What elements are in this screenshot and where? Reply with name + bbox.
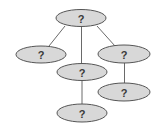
tree-node-right-child: ? bbox=[98, 83, 150, 101]
node-label: ? bbox=[121, 49, 128, 61]
node-label: ? bbox=[38, 49, 45, 61]
node-label: ? bbox=[121, 87, 128, 99]
tree-node-right: ? bbox=[98, 45, 150, 63]
edge-root-right bbox=[97, 26, 115, 46]
tree-diagram: ? ? ? ? ? ? bbox=[0, 0, 162, 134]
node-label: ? bbox=[79, 67, 86, 79]
tree-node-left: ? bbox=[16, 46, 66, 63]
tree-node-middle: ? bbox=[57, 64, 107, 81]
tree-node-root: ? bbox=[56, 10, 106, 27]
node-label: ? bbox=[78, 13, 85, 25]
edge-root-left bbox=[49, 26, 65, 46]
node-label: ? bbox=[79, 108, 86, 120]
tree-node-bottom: ? bbox=[57, 104, 107, 122]
